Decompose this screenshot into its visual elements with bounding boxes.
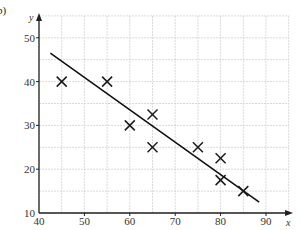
y-axis-arrow-icon [36,13,42,21]
x-tick-label: 70 [170,215,182,227]
axes: xy [28,12,293,228]
y-tick-label: 30 [24,119,36,131]
best-fit-line [50,53,259,202]
x-axis-label: x [285,217,291,228]
x-tick-label: 40 [34,215,46,227]
y-tick-label: 20 [24,163,36,175]
y-axis-label: y [28,12,34,23]
x-tick-label: 60 [124,215,136,227]
y-tick-label: 10 [24,207,36,219]
x-tick-label: 50 [79,215,91,227]
best-fit-line-path [50,53,259,202]
scatter-chart: xy 4050607080901020304050 [0,0,300,230]
x-tick-label: 80 [215,215,227,227]
grid-lines [39,16,289,213]
y-tick-label: 50 [24,32,36,44]
x-tick-label: 90 [261,215,273,227]
y-tick-label: 40 [24,76,36,88]
